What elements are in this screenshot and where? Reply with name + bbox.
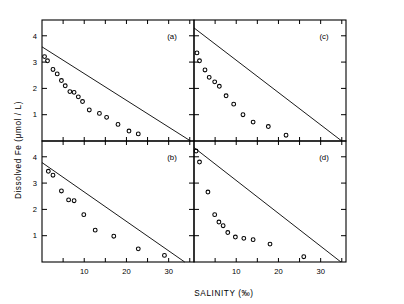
plot-background (0, 0, 404, 304)
x-tick-label: 20 (122, 267, 130, 276)
x-tick-label: 30 (164, 267, 172, 276)
y-axis-label: Dissolved Fe (μmol / L) (14, 101, 23, 199)
scatter-plot-figure: 1234(a)1020301234(b)(c)102030(d) Dissolv… (0, 0, 404, 304)
panel-label: (d) (319, 153, 329, 162)
y-tick-label: 4 (33, 32, 37, 41)
y-tick-label: 3 (33, 179, 37, 188)
y-tick-label: 1 (33, 231, 37, 240)
y-tick-label: 1 (33, 110, 37, 119)
x-tick-label: 20 (274, 267, 282, 276)
y-tick-label: 4 (33, 153, 37, 162)
y-tick-label: 2 (33, 84, 37, 93)
x-axis-label: SALINITY (‰) (194, 289, 253, 298)
panel-label: (c) (319, 32, 328, 41)
y-tick-label: 2 (33, 205, 37, 214)
y-tick-label: 3 (33, 58, 37, 67)
panel-label: (a) (167, 32, 177, 41)
x-tick-label: 10 (232, 267, 240, 276)
figure-container: 1234(a)1020301234(b)(c)102030(d) Dissolv… (0, 0, 404, 304)
x-tick-label: 10 (80, 267, 88, 276)
panel-label: (b) (167, 153, 177, 162)
x-tick-label: 30 (316, 267, 324, 276)
